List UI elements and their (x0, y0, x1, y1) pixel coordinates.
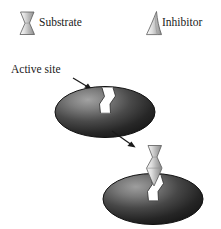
enzyme-inhibitor-diagram: Substrate Inhibitor Active site (0, 0, 221, 229)
enzyme-empty (55, 87, 155, 138)
legend-substrate-icon (20, 12, 35, 35)
legend-inhibitor-label: Inhibitor (162, 17, 202, 29)
legend-inhibitor-icon (147, 12, 162, 35)
diagram-canvas (0, 0, 221, 229)
active-site-label: Active site (11, 64, 61, 76)
legend-substrate-label: Substrate (39, 17, 82, 29)
